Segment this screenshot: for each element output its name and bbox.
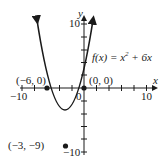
x-max-label: 10 (141, 90, 153, 102)
origin-label: 0 (76, 90, 82, 102)
parabola-graph: y x 10 −10 −10 10 0 (−6, 0) (0, 0) (−3, … (0, 0, 165, 166)
y-min-label: −10 (63, 146, 81, 158)
point-x-intercept-neg6 (44, 85, 49, 90)
x-axis-label: x (152, 74, 158, 86)
point-origin (81, 85, 86, 90)
point-label-neg6: (−6, 0) (16, 74, 46, 87)
point-label-origin: (0, 0) (89, 74, 113, 87)
x-min-label: −10 (10, 90, 28, 102)
point-label-vertex: (−3, −9) (8, 139, 45, 152)
y-max-label: 10 (69, 17, 81, 29)
parabola-curve (37, 20, 93, 110)
function-label: f(x) = x2 + 6x (92, 50, 152, 64)
